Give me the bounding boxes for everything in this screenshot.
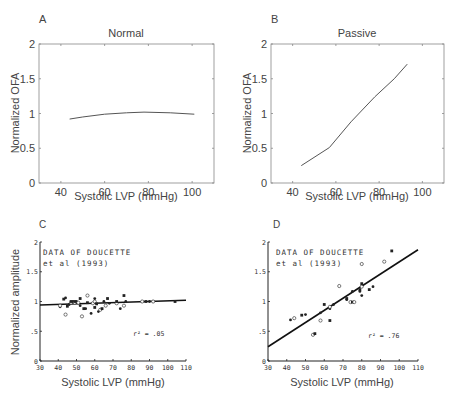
data-point — [353, 300, 356, 303]
data-point — [390, 250, 393, 253]
panel-letter: C — [39, 219, 46, 230]
x-tick-label: 70 — [109, 364, 117, 372]
y-tick-label: 1 — [262, 298, 266, 306]
data-point — [144, 300, 147, 303]
data-point — [93, 297, 96, 300]
x-tick-label: 60 — [320, 364, 328, 372]
data-point — [351, 290, 354, 293]
x-tick-label: 40 — [55, 186, 67, 198]
x-tick-label: 80 — [358, 364, 366, 372]
r-squared-label: r² = .76 — [368, 332, 399, 340]
data-point — [360, 282, 363, 285]
annotation-source: DATA OF DOUCETTE — [43, 248, 131, 257]
data-point — [358, 290, 361, 293]
y-tick-label: 0 — [262, 358, 266, 366]
data-point — [79, 304, 82, 307]
data-point — [174, 300, 177, 303]
figure: A Normal Normalized OFA Systolic LVP (mm… — [0, 0, 454, 397]
data-point — [360, 294, 363, 297]
data-point — [90, 312, 93, 315]
data-point — [345, 298, 348, 301]
regression-line — [40, 300, 186, 305]
data-point — [360, 262, 363, 265]
data-point — [323, 303, 326, 306]
plot-area: 40608010000.511.52 — [20, 38, 214, 198]
y-tick-label: 2 — [34, 239, 38, 247]
data-point — [86, 294, 89, 297]
annotation-source: DATA OF DOUCETTE — [276, 248, 364, 257]
data-point — [148, 300, 151, 303]
annotation-source-year: et al (1993) — [276, 259, 342, 268]
x-tick-label: 40 — [283, 364, 291, 372]
data-point — [104, 304, 107, 307]
annotation-source-year: et al (1993) — [43, 259, 109, 268]
data-point — [119, 307, 122, 310]
data-point — [289, 319, 292, 322]
x-tick-label: 60 — [91, 364, 99, 372]
axes-frame — [271, 44, 444, 183]
y-tick-label: 0.5 — [252, 142, 267, 154]
y-axis-label: Normalized amplitude — [9, 249, 21, 355]
x-axis-label: Systolic LVP (mmHg) — [305, 190, 409, 202]
data-point — [80, 315, 83, 318]
data-point — [319, 319, 322, 322]
x-tick-label: 50 — [73, 364, 81, 372]
x-tick-label: 40 — [54, 364, 62, 372]
data-point — [152, 300, 155, 303]
y-tick-label: 1 — [34, 298, 38, 306]
y-tick-label: 0 — [29, 177, 35, 189]
x-tick-label: 100 — [413, 186, 431, 198]
data-line — [70, 112, 195, 119]
panel-c: C Normalized amplitude Systolic LVP (mmH… — [9, 219, 192, 388]
x-tick-label: 40 — [287, 186, 299, 198]
x-tick-label: 70 — [339, 364, 347, 372]
x-axis-label: Systolic LVP (mmHg) — [74, 190, 178, 202]
data-point — [79, 297, 82, 300]
data-point — [95, 302, 98, 305]
x-tick-label: 80 — [127, 364, 135, 372]
data-point — [313, 332, 316, 335]
x-axis-label: Systolic LVP (mmHg) — [290, 376, 394, 388]
x-tick-label: 80 — [373, 186, 385, 198]
data-point — [64, 297, 67, 300]
y-tick-label: 1 — [261, 108, 267, 120]
y-tick-label: 0 — [34, 358, 38, 366]
data-point — [122, 304, 125, 307]
plot-area: 40608010000.511.52 — [252, 38, 444, 198]
data-point — [319, 311, 322, 314]
data-point — [368, 288, 371, 291]
data-point — [372, 285, 375, 288]
x-tick-label: 110 — [412, 364, 424, 372]
panel-d: D Systolic LVP (mmHg) DATA OF DOUCETTE e… — [254, 219, 424, 388]
x-tick-label: 100 — [162, 364, 174, 372]
data-point — [106, 297, 109, 300]
data-point — [383, 260, 386, 263]
x-tick-label: 80 — [142, 186, 154, 198]
data-point — [77, 301, 80, 304]
panel-letter: B — [271, 13, 278, 25]
data-point — [123, 294, 126, 297]
data-point — [108, 302, 111, 305]
y-tick-label: 2 — [261, 38, 267, 50]
data-point — [86, 301, 89, 304]
data-point — [58, 304, 61, 307]
panel-a: A Normal Normalized OFA Systolic LVP (mm… — [9, 13, 214, 202]
x-tick-label: 60 — [330, 186, 342, 198]
data-point — [101, 307, 104, 310]
y-tick-label: .5 — [258, 328, 266, 336]
panel-b: B Passive Normalized OFA Systolic LVP (m… — [241, 13, 444, 202]
y-tick-label: 1.5 — [252, 73, 267, 85]
x-tick-label: 50 — [302, 364, 310, 372]
data-point — [64, 313, 67, 316]
y-tick-label: 1.5 — [20, 73, 35, 85]
data-point — [141, 300, 144, 303]
data-point — [84, 307, 87, 310]
y-tick-label: 0 — [261, 177, 267, 189]
y-tick-label: .5 — [30, 328, 38, 336]
data-point — [124, 300, 127, 303]
y-tick-label: 2 — [29, 38, 35, 50]
y-tick-label: 1 — [29, 108, 35, 120]
x-tick-label: 90 — [146, 364, 154, 372]
data-point — [115, 300, 118, 303]
data-point — [304, 313, 307, 316]
